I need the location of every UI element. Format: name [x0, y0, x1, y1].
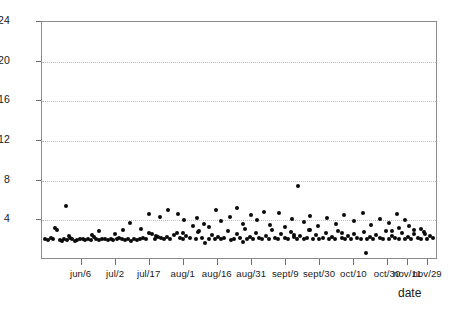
- y-tick-mark: [36, 180, 41, 181]
- y-tick-mark: [36, 219, 41, 220]
- x-tick-mark: [353, 259, 354, 265]
- x-tick-label: sept/9: [272, 268, 299, 279]
- x-tick-mark: [407, 259, 408, 265]
- x-tick-mark: [427, 259, 428, 265]
- gridline: [42, 220, 436, 221]
- y-tick-mark: [36, 140, 41, 141]
- x-tick-mark: [183, 259, 184, 265]
- gridline: [42, 141, 436, 142]
- x-tick-mark: [285, 259, 286, 265]
- y-tick-label: 8: [0, 173, 10, 185]
- x-tick-label: oct/10: [340, 268, 367, 279]
- x-tick-label: aug/1: [171, 268, 196, 279]
- y-tick-label: 16: [0, 93, 10, 105]
- y-tick-mark: [36, 21, 41, 22]
- x-tick-label: nov/29: [412, 268, 441, 279]
- x-tick-mark: [81, 259, 82, 265]
- x-axis-title: date: [398, 286, 421, 300]
- y-tick-mark: [36, 100, 41, 101]
- y-tick-mark: [36, 61, 41, 62]
- gridline: [42, 62, 436, 63]
- x-tick-mark: [319, 259, 320, 265]
- x-tick-mark: [115, 259, 116, 265]
- x-tick-label: aug/31: [236, 268, 266, 279]
- plot-area: [41, 21, 437, 259]
- x-tick-mark: [251, 259, 252, 265]
- gridline: [42, 101, 436, 102]
- x-tick-label: sept/30: [303, 268, 335, 279]
- gridline: [42, 181, 436, 182]
- x-tick-mark: [387, 259, 388, 265]
- y-tick-label: 24: [0, 14, 10, 26]
- x-tick-label: jul/2: [106, 268, 124, 279]
- x-tick-label: aug/16: [202, 268, 232, 279]
- y-tick-label: 4: [0, 212, 10, 224]
- y-tick-label: 12: [0, 133, 10, 145]
- x-tick-mark: [149, 259, 150, 265]
- x-tick-mark: [217, 259, 218, 265]
- y-tick-label: 20: [0, 54, 10, 66]
- x-tick-label: jul/17: [137, 268, 161, 279]
- scatter-chart: 4812162024 jun/6jul/2jul/17aug/1aug/16au…: [0, 0, 459, 315]
- x-tick-label: jun/6: [70, 268, 91, 279]
